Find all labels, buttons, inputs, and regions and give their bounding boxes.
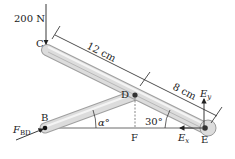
label-B: B bbox=[41, 112, 48, 123]
force-FBD-label: FBD bbox=[12, 124, 31, 137]
reaction-Ex-label: Ex bbox=[177, 132, 189, 145]
label-D: D bbox=[121, 89, 129, 100]
dimension-8cm: 8 cm bbox=[171, 81, 198, 102]
label-F: F bbox=[131, 132, 138, 143]
pin-E bbox=[202, 125, 208, 131]
label-C: C bbox=[36, 38, 44, 49]
load-label: 200 N bbox=[14, 13, 45, 24]
reaction-Ey-label: Ey bbox=[199, 88, 212, 101]
dimension-12cm: 12 cm bbox=[85, 40, 118, 64]
angle-30-label: 30° bbox=[145, 116, 163, 127]
statics-frame-diagram: 200 N C 12 cm 8 cm D B α° 30° F E Ey Ex … bbox=[0, 0, 235, 159]
angle-alpha-label: α° bbox=[98, 117, 110, 128]
label-E: E bbox=[201, 134, 208, 145]
dimension-lines bbox=[52, 26, 222, 123]
pin-D bbox=[132, 92, 137, 97]
pin-B bbox=[43, 126, 48, 131]
